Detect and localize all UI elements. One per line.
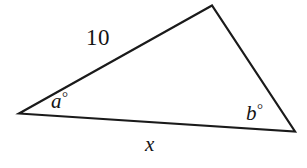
angle-b-variable: b	[246, 101, 257, 125]
angle-label-a: a°	[51, 90, 68, 112]
degree-symbol-icon: °	[257, 101, 263, 117]
geometry-figure: 10 a° b° x	[0, 0, 307, 168]
angle-a-variable: a	[51, 89, 62, 113]
side-length-label-x: x	[145, 134, 154, 155]
degree-symbol-icon: °	[62, 89, 68, 105]
angle-label-b: b°	[246, 102, 263, 124]
side-length-label-10: 10	[86, 26, 110, 49]
